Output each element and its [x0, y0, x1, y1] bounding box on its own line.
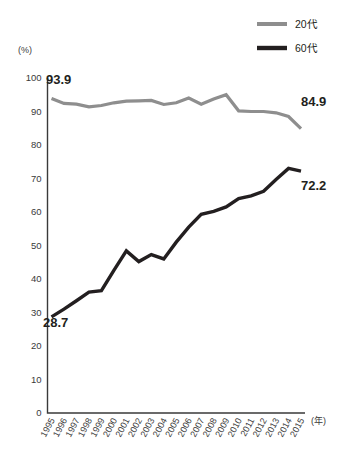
label-60dai-end: 72.2 — [301, 178, 326, 193]
label-20dai-start: 93.9 — [46, 72, 71, 87]
y-tick-label-0: 0 — [36, 407, 41, 418]
chart-annotations: 93.984.928.772.2 — [43, 72, 326, 330]
y-tick-label-100: 100 — [26, 72, 42, 83]
label-60dai-start: 28.7 — [43, 315, 68, 330]
chart-axes — [48, 78, 306, 413]
line-chart: 20代60代 (%) 0102030405060708090100 199519… — [0, 0, 346, 467]
y-tick-label-90: 90 — [31, 106, 42, 117]
x-axis-ticks: 1995199619971998199920002001200220032004… — [39, 416, 307, 438]
x-axis-unit-label: (年) — [311, 415, 326, 426]
label-20dai-end: 84.9 — [301, 94, 326, 109]
y-axis-ticks: 0102030405060708090100 — [26, 72, 42, 418]
y-tick-label-80: 80 — [31, 139, 42, 150]
y-tick-label-10: 10 — [31, 374, 42, 385]
y-axis-unit-label: (%) — [18, 45, 32, 55]
y-tick-label-20: 20 — [31, 340, 42, 351]
y-tick-label-30: 30 — [31, 307, 42, 318]
legend-label-2: 60代 — [295, 42, 318, 54]
y-tick-label-40: 40 — [31, 273, 42, 284]
chart-legend: 20代60代 — [257, 18, 318, 54]
y-tick-label-70: 70 — [31, 173, 42, 184]
y-tick-label-60: 60 — [31, 206, 42, 217]
series-line-2 — [52, 168, 302, 316]
series-line-1 — [52, 95, 302, 129]
chart-series — [52, 95, 302, 317]
chart-canvas: 20代60代 (%) 0102030405060708090100 199519… — [0, 0, 346, 467]
legend-label-1: 20代 — [295, 18, 318, 30]
y-tick-label-50: 50 — [31, 240, 42, 251]
